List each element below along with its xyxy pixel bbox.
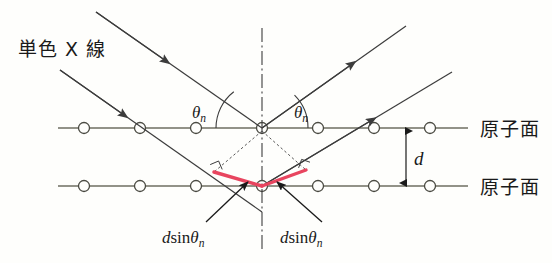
atom (313, 181, 324, 192)
path-difference-label-left: dsinθn (162, 228, 205, 250)
atom (425, 123, 436, 134)
atom (425, 181, 436, 192)
incident-beam-label: 単色 X 線 (18, 38, 106, 60)
bragg-diffraction-figure: 単色 X 線 原子面 原子面 θn θn d dsinθn dsinθn (0, 0, 552, 263)
diagram-canvas: 単色 X 線 原子面 原子面 θn θn d dsinθn dsinθn (0, 0, 552, 263)
atom (369, 123, 380, 134)
atom (369, 181, 380, 192)
atom (191, 181, 202, 192)
plane-label-lower: 原子面 (480, 176, 540, 198)
atom (79, 181, 90, 192)
atom (135, 181, 146, 192)
interplanar-spacing-label: d (414, 148, 424, 169)
atom (313, 123, 324, 134)
path-difference-label-right: dsinθn (280, 228, 323, 250)
plane-label-upper: 原子面 (480, 118, 540, 140)
atom (79, 123, 90, 134)
